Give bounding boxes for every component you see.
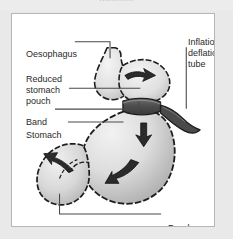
figure-root: ............ xyxy=(0,0,233,239)
label-band: Band xyxy=(26,117,47,128)
stomach-shape xyxy=(82,109,175,204)
duodenum-shape xyxy=(37,144,89,205)
label-oesophagus: Oesophagus xyxy=(26,49,77,60)
label-inflation-deflation-tube: Inflation-deflation tube xyxy=(188,37,215,70)
diagram-frame: Oesophagus Reduced stomach pouch Band St… xyxy=(11,13,215,227)
label-duodenum: Duodenum xyxy=(168,223,212,227)
label-stomach: Stomach xyxy=(26,130,62,141)
reduced-stomach-pouch-shape xyxy=(119,60,170,104)
top-bleed-text: ............ xyxy=(0,0,233,3)
label-reduced-stomach-pouch: Reduced stomach pouch xyxy=(26,74,78,107)
top-bleed-strip: ............ xyxy=(0,0,233,11)
band-shape xyxy=(123,98,161,114)
